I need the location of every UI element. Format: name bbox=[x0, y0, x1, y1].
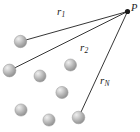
mass-6 bbox=[15, 104, 27, 116]
mass-1 bbox=[14, 35, 26, 47]
vector-label-r-1: r1 bbox=[57, 6, 65, 19]
field-point-label: P bbox=[131, 3, 137, 14]
mass-7 bbox=[43, 114, 55, 126]
mass-3 bbox=[34, 70, 46, 82]
vector-label-r-2: r2 bbox=[80, 42, 88, 55]
mass-5 bbox=[56, 86, 68, 98]
figure-canvas bbox=[0, 0, 140, 132]
field-point-dot bbox=[125, 9, 130, 14]
physics-figure: P r1 r2 rN bbox=[0, 0, 140, 132]
vector-label-r-N-subscript: N bbox=[104, 79, 109, 88]
vector-line-r-1 bbox=[21, 12, 128, 42]
mass-8 bbox=[72, 111, 85, 124]
vector-label-r-1-subscript: 1 bbox=[61, 10, 65, 19]
mass-2 bbox=[3, 64, 16, 77]
vector-label-r-N: rN bbox=[100, 75, 110, 88]
vector-label-r-2-subscript: 2 bbox=[84, 46, 88, 55]
point-mass-group bbox=[3, 35, 85, 126]
vector-line-r-N bbox=[79, 12, 128, 118]
mass-4 bbox=[65, 59, 77, 71]
